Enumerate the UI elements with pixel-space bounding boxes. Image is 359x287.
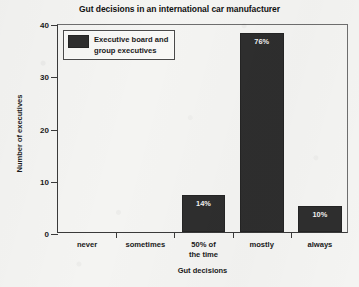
chart-legend: Executive board and group executives — [63, 30, 175, 60]
y-axis-tick-label: 20 — [40, 125, 49, 134]
legend-series-label: Executive board and group executives — [94, 34, 168, 56]
bar[interactable]: 14% — [182, 195, 226, 232]
legend-color-swatch — [68, 35, 89, 48]
bar-chart-figure: Gut decisions in an international car ma… — [0, 0, 359, 287]
plot-area: 010203040 neversometimes50% of the timem… — [57, 24, 348, 233]
x-axis-tick-mark — [174, 232, 175, 238]
y-axis-tick-label: 40 — [40, 21, 49, 30]
bar[interactable]: 10% — [298, 206, 342, 232]
x-axis-title: Gut decisions — [57, 266, 348, 275]
bar-value-label: 14% — [183, 199, 225, 208]
y-axis-tick-label: 10 — [40, 177, 49, 186]
x-axis-tick-label: never — [77, 240, 97, 250]
x-axis-tick-label: 50% of the time — [189, 240, 218, 259]
bar-value-label: 10% — [299, 210, 341, 219]
bar-value-label: 76% — [241, 37, 283, 46]
y-axis-tick-mark — [51, 234, 58, 235]
x-axis-tick-label: mostly — [249, 240, 273, 250]
y-axis-tick-label: 30 — [40, 73, 49, 82]
y-axis-tick-mark — [51, 130, 58, 131]
y-axis-tick-mark — [51, 77, 58, 78]
y-axis-tick-label: 0 — [45, 230, 49, 239]
x-axis-tick-label: always — [307, 240, 332, 250]
x-axis-tick-mark — [116, 232, 117, 238]
y-axis-tick-mark — [51, 182, 58, 183]
x-axis-tick-label: sometimes — [125, 240, 165, 250]
bar[interactable]: 76% — [240, 33, 284, 232]
y-axis-title: Number of executives — [15, 64, 24, 204]
chart-title: Gut decisions in an international car ma… — [0, 4, 359, 14]
y-axis-tick-mark — [51, 25, 58, 26]
x-axis-tick-mark — [233, 232, 234, 238]
x-axis-tick-mark — [291, 232, 292, 238]
